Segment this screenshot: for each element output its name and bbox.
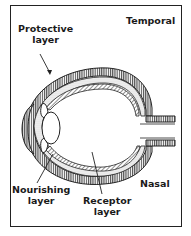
label-protective-line2: layer <box>18 34 73 45</box>
label-protective-layer: Protective layer <box>18 23 73 45</box>
label-receptor-line2: layer <box>83 206 131 217</box>
label-receptor-layer: Receptor layer <box>83 195 131 217</box>
optic-nerve <box>146 116 175 146</box>
label-temporal: Temporal <box>126 15 175 26</box>
lens <box>42 112 60 144</box>
label-nasal: Nasal <box>140 178 170 189</box>
label-nourishing-line1: Nourishing <box>12 184 70 195</box>
label-nourishing-line2: layer <box>12 195 70 206</box>
label-nourishing-layer: Nourishing layer <box>12 184 70 206</box>
label-protective-line1: Protective <box>18 23 73 34</box>
label-receptor-line1: Receptor <box>83 195 131 206</box>
